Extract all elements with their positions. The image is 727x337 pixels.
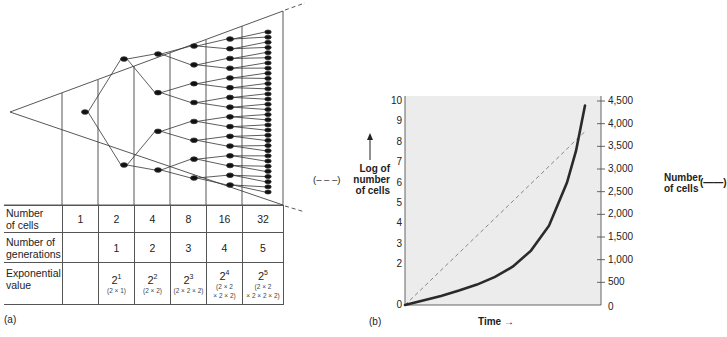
right-arrow-icon: → — [504, 316, 514, 327]
left-axis-tick-label: 4 — [388, 217, 402, 228]
right-axis-tick-label: 3,500 — [608, 140, 633, 151]
right-axis-tick-label: 3,000 — [608, 163, 633, 174]
up-arrow-head-icon — [367, 133, 373, 140]
left-axis-tick-label: 7 — [388, 156, 402, 167]
right-axis-tick-label: 4,000 — [608, 118, 633, 129]
left-axis-tick-label: 9 — [388, 115, 402, 126]
right-axis-tick-label: 2,500 — [608, 186, 633, 197]
left-axis-title-line: number — [353, 174, 390, 185]
panel-b-label: (b) — [369, 316, 381, 327]
left-axis-legend-marker: (– – –) — [313, 174, 340, 185]
left-axis-tick-label: 5 — [388, 197, 402, 208]
left-axis-tick-label: 8 — [388, 136, 402, 147]
x-axis-title-text: Time — [478, 316, 501, 327]
left-axis-tick-label: 6 — [388, 177, 402, 188]
left-axis-title-line: Log of — [359, 163, 390, 174]
right-axis-tick-label: 1,000 — [608, 254, 633, 265]
right-axis-title: Number of cells — [664, 172, 702, 194]
left-axis-tick-label: 2 — [388, 258, 402, 269]
left-axis-tick-label: 10 — [388, 95, 402, 106]
left-axis-tick-label: 0 — [388, 299, 402, 310]
x-axis-title: Time → — [478, 316, 514, 327]
right-axis-tick-label: 1,500 — [608, 231, 633, 242]
right-axis-tick-label: 2,000 — [608, 208, 633, 219]
left-axis-title-line: of cells — [356, 185, 390, 196]
right-axis-tick-label: 0 — [608, 301, 614, 312]
right-axis-legend-marker: (——) — [700, 177, 727, 188]
right-axis-title-line: of cells — [664, 183, 698, 194]
right-axis-tick-label: 500 — [608, 276, 625, 287]
right-axis-tick-label: 4,500 — [608, 95, 633, 106]
left-axis-tick-label: 3 — [388, 238, 402, 249]
right-axis-title-line: Number — [664, 172, 702, 183]
left-axis-title: Log of number of cells — [340, 163, 390, 196]
